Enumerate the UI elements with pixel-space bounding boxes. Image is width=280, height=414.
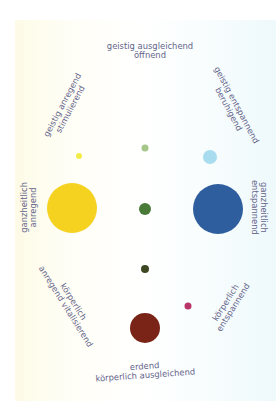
maroon-circle [130, 313, 160, 343]
yellow-large-circle [47, 183, 97, 233]
label-left-line2: anregend [29, 172, 38, 242]
green-center-circle [139, 203, 151, 215]
blue-large-circle [193, 184, 243, 234]
circle-diagram [0, 0, 280, 414]
yellow-small-circle [76, 153, 82, 159]
label-top-line2: öffnend [95, 51, 205, 60]
magenta-small-circle [185, 303, 192, 310]
label-top: geistig ausgleichend öffnend [95, 42, 205, 61]
label-right-line1: ganzheitlich [259, 170, 268, 244]
light-blue-circle [203, 150, 217, 164]
label-right-line2: entspannend [250, 170, 259, 244]
dark-olive-circle [141, 265, 149, 273]
light-green-small-circle [142, 145, 149, 152]
label-right: ganzheitlich entspannend [250, 170, 269, 244]
label-left: ganzheitlich anregend [20, 172, 39, 242]
